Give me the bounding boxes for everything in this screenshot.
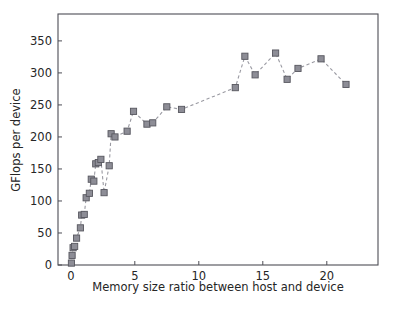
data-series-group <box>68 50 349 266</box>
data-point-marker <box>273 50 279 56</box>
data-point-marker <box>284 76 290 82</box>
y-tick-label: 50 <box>37 226 52 240</box>
data-point-marker <box>73 235 79 241</box>
data-point-marker <box>242 53 248 59</box>
data-point-marker <box>81 211 87 217</box>
data-point-marker <box>98 156 104 162</box>
data-point-marker <box>318 56 324 62</box>
chart-figure: 05101520 050100150200250300350 Memory si… <box>0 0 398 314</box>
data-point-marker <box>72 243 78 249</box>
data-point-marker <box>232 85 238 91</box>
data-point-marker <box>343 81 349 87</box>
y-axis-ticks: 050100150200250300350 <box>30 34 62 272</box>
x-axis-title: Memory size ratio between host and devic… <box>92 280 343 294</box>
data-point-marker <box>124 128 130 134</box>
data-point-marker <box>252 72 258 78</box>
y-tick-label: 100 <box>30 194 52 208</box>
data-point-marker <box>68 260 74 266</box>
y-tick-label: 250 <box>30 98 52 112</box>
data-point-marker <box>144 121 150 127</box>
y-tick-label: 200 <box>30 130 52 144</box>
y-tick-label: 300 <box>30 66 52 80</box>
data-point-marker <box>86 190 92 196</box>
data-point-marker <box>101 190 107 196</box>
data-point-marker <box>178 106 184 112</box>
data-point-marker <box>295 65 301 71</box>
y-axis-title: GFlops per device <box>9 88 23 191</box>
gflops-vs-memory-ratio-chart: 05101520 050100150200250300350 Memory si… <box>0 0 398 314</box>
plot-frame <box>58 14 378 265</box>
data-point-marker <box>91 178 97 184</box>
y-tick-label: 350 <box>30 34 52 48</box>
series-line <box>71 53 346 263</box>
data-point-marker <box>69 252 75 258</box>
x-tick-label: 0 <box>67 269 74 283</box>
y-tick-label: 150 <box>30 162 52 176</box>
data-point-marker <box>164 104 170 110</box>
y-tick-label: 0 <box>45 258 52 272</box>
data-point-marker <box>150 120 156 126</box>
data-point-marker <box>106 163 112 169</box>
data-point-marker <box>77 225 83 231</box>
data-point-marker <box>112 134 118 140</box>
data-point-marker <box>130 108 136 114</box>
